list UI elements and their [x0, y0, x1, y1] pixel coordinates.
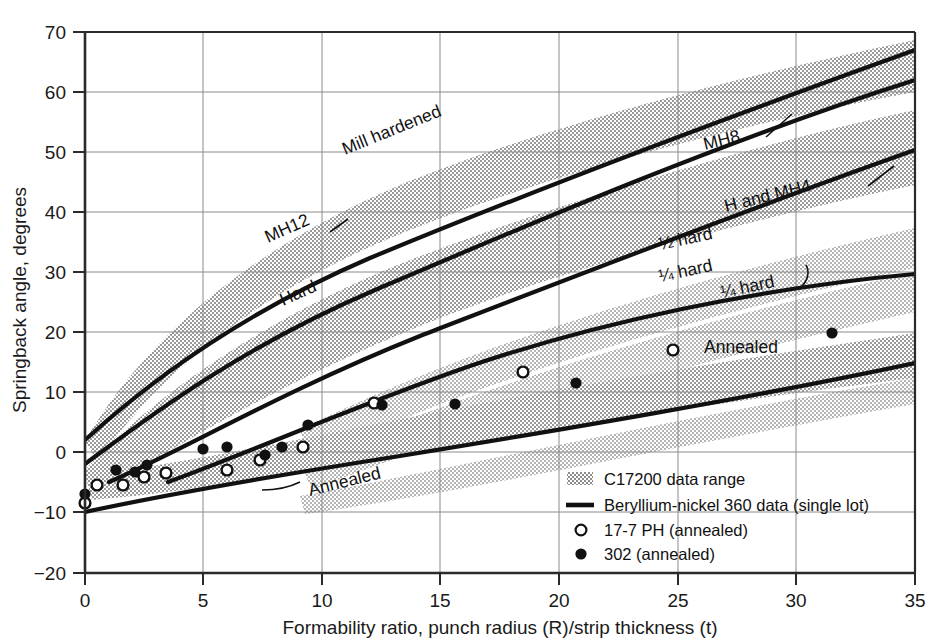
- legend-swatch-hatch-icon: [567, 472, 593, 485]
- y-axis-title: Springback angle, degrees: [9, 187, 30, 413]
- xtick-label: 30: [785, 590, 806, 611]
- xtick-label: 25: [667, 590, 688, 611]
- data-point-open: [518, 367, 529, 378]
- data-point-filled: [826, 327, 837, 338]
- ytick-label: 20: [45, 322, 66, 343]
- data-point-filled: [259, 449, 270, 460]
- xtick-label: 10: [311, 590, 332, 611]
- xtick-label: 0: [80, 590, 91, 611]
- data-point-filled: [449, 398, 460, 409]
- label-annealed-right: Annealed: [704, 337, 778, 357]
- data-point-open: [92, 480, 103, 491]
- ytick-label: 60: [45, 82, 66, 103]
- legend-label-data-range: C17200 data range: [604, 470, 745, 488]
- ytick-label: −10: [34, 502, 66, 523]
- data-point-filled: [570, 377, 581, 388]
- data-point-filled: [302, 419, 313, 430]
- data-point-filled: [276, 441, 287, 452]
- legend-swatch-filled-circle-icon: [575, 548, 586, 559]
- data-point-filled: [141, 459, 152, 470]
- data-point-open: [161, 468, 172, 479]
- ytick-label: −20: [34, 563, 66, 584]
- data-point-open: [298, 442, 309, 453]
- chart-canvas: 70 60 50 40 30 20 10 0 −10 −20 0 5 10 15…: [0, 0, 944, 640]
- data-point-filled: [376, 399, 387, 410]
- ytick-label: 50: [45, 142, 66, 163]
- xtick-label: 5: [198, 590, 209, 611]
- x-axis-title: Formability ratio, punch radius (R)/stri…: [282, 617, 717, 638]
- legend-label-beryllium-nickel: Beryllium-nickel 360 data (single lot): [604, 496, 869, 514]
- data-point-open: [668, 345, 679, 356]
- ytick-label: 70: [45, 22, 66, 43]
- xtick-label: 35: [904, 590, 925, 611]
- legend-label-17-7-ph: 17-7 PH (annealed): [604, 521, 748, 539]
- legend-swatch-open-circle-icon: [576, 525, 587, 536]
- data-point-filled: [197, 443, 208, 454]
- xtick-label: 15: [429, 590, 450, 611]
- springback-angle-chart: 70 60 50 40 30 20 10 0 −10 −20 0 5 10 15…: [0, 0, 944, 640]
- data-point-filled: [129, 466, 140, 477]
- data-point-open: [222, 465, 233, 476]
- ytick-label: 10: [45, 382, 66, 403]
- ytick-label: 0: [55, 442, 66, 463]
- xtick-label: 20: [548, 590, 569, 611]
- data-point-filled: [110, 464, 121, 475]
- ytick-label: 30: [45, 262, 66, 283]
- ytick-label: 40: [45, 202, 66, 223]
- data-point-open: [118, 480, 129, 491]
- legend-label-302: 302 (annealed): [604, 545, 715, 563]
- data-point-filled: [221, 441, 232, 452]
